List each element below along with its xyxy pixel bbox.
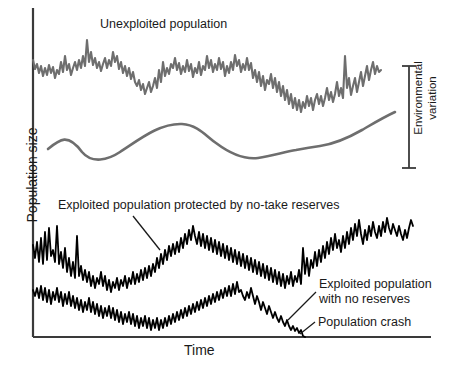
- leader-line-reserves: [133, 216, 160, 250]
- annotation-exploited-with-reserves: Exploited population protected by no-tak…: [58, 198, 339, 212]
- annotation-unexploited-population: Unexploited population: [100, 17, 227, 31]
- annotation-no-reserves-line2: with no reserves: [319, 292, 410, 306]
- annotation-env-variation-line2: variation: [426, 76, 438, 119]
- figure-root: Population size Time Unexploited populat…: [0, 0, 453, 372]
- annotation-exploited-no-reserves: Exploited populationwith no reserves: [319, 277, 432, 306]
- annotation-environmental-variation: Environmentalvariation: [412, 78, 452, 156]
- series-environmental-variation: [48, 112, 395, 160]
- annotation-env-variation-line1: Environmental: [412, 61, 424, 135]
- annotation-population-crash: Population crash: [318, 315, 411, 329]
- leader-line-crash: [300, 322, 315, 334]
- x-axis-label: Time: [184, 343, 215, 357]
- annotation-no-reserves-line1: Exploited population: [319, 277, 432, 291]
- y-axis-label: Population size: [25, 95, 39, 255]
- series-unexploited-population: [33, 40, 381, 112]
- annotation-leader-lines: [133, 216, 316, 334]
- series-exploited-no-reserves: [33, 282, 305, 337]
- leader-line-no-reserves: [288, 292, 316, 320]
